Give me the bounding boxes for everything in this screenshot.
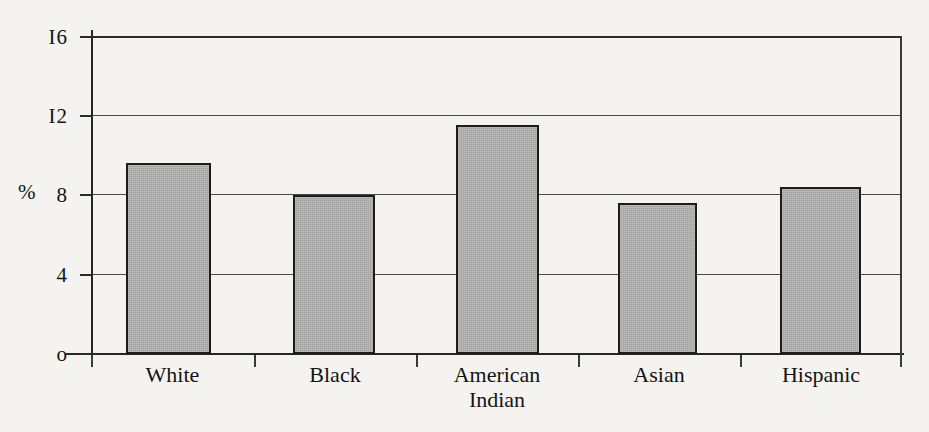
y-tick-mark-4 xyxy=(80,274,92,276)
bar-chart: % I6 I2 8 4 o White Black AmericanIndian… xyxy=(0,0,929,432)
bar-asian xyxy=(618,203,697,354)
x-label-hispanic: Hispanic xyxy=(740,362,902,387)
gridline-16 xyxy=(91,36,902,38)
gridline-12 xyxy=(91,115,902,116)
bar-white xyxy=(126,163,211,354)
y-tick-label-12: I2 xyxy=(26,104,68,129)
x-label-black: Black xyxy=(254,362,416,387)
x-label-asian: Asian xyxy=(578,362,740,387)
bar-hispanic xyxy=(780,187,861,354)
bar-black xyxy=(293,195,375,354)
bar-american-indian xyxy=(456,125,539,354)
y-tick-mark-12 xyxy=(80,115,92,117)
x-label-white: White xyxy=(91,362,254,387)
y-tick-mark-8 xyxy=(80,194,92,196)
y-tick-label-0: o xyxy=(26,342,68,367)
y-tick-label-4: 4 xyxy=(26,263,68,288)
y-tick-label-8: 8 xyxy=(26,183,68,208)
y-tick-mark-16 xyxy=(80,36,92,38)
plot-right-border xyxy=(900,36,902,355)
x-label-american-indian: AmericanIndian xyxy=(416,362,578,412)
y-tick-label-16: I6 xyxy=(26,25,68,50)
